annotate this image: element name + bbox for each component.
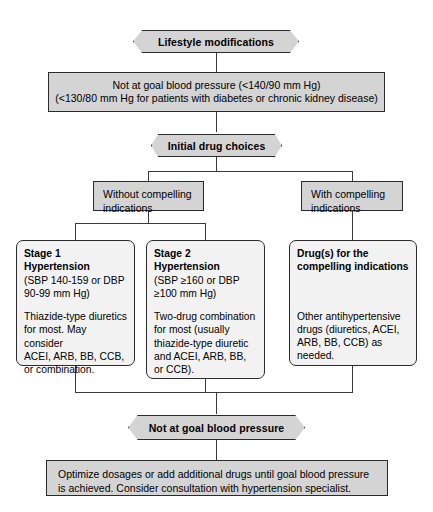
node-compelling-drugs-body-line1: Other antihypertensive <box>297 310 409 323</box>
node-compelling-drugs-body-line2: drugs (diuretics, ACEI, <box>297 323 409 336</box>
node-initial-drug-choices[interactable]: Initial drug choices <box>151 134 282 157</box>
node-stage1-body-line3: ACEI, ARB, BB, CCB, <box>24 350 127 363</box>
connector-merge-bar <box>75 392 353 393</box>
node-stage2-detail-line2: ≥100 mm Hg) <box>154 287 257 300</box>
node-stage2-body-line3: thiazide-type diuretic <box>154 337 257 350</box>
node-compelling-drugs-heading-line1: Drug(s) for the <box>297 247 409 260</box>
connector-lifestyle-to-notatgoal1 <box>216 53 217 72</box>
node-stage2-body-line4: and ACEI, ARB, BB, <box>154 350 257 363</box>
node-stage2-heading-line2: Hypertension <box>154 260 257 273</box>
node-stage1-detail-line2: 90-99 mm Hg) <box>24 287 127 300</box>
node-stage1-detail-line1: (SBP 140-159 or DBP <box>24 274 127 287</box>
node-optimize-dosages[interactable]: Optimize dosages or add additional drugs… <box>46 460 388 496</box>
node-lifestyle-modifications-label: Lifestyle modifications <box>144 36 288 48</box>
connector-merge-to-notatgoal2 <box>216 392 217 414</box>
node-stage1-heading-line1: Stage 1 <box>24 247 127 260</box>
node-stage1-body-line2: for most. May consider <box>24 323 127 350</box>
node-stage1-spacer <box>24 300 127 310</box>
node-stage-2-hypertension[interactable]: Stage 2 Hypertension (SBP ≥160 or DBP ≥1… <box>146 240 265 379</box>
node-optimize-line2: is achieved. Consider consultation with … <box>58 482 376 496</box>
node-stage2-body-line1: Two-drug combination <box>154 310 257 323</box>
node-stage2-heading-line1: Stage 2 <box>154 247 257 260</box>
node-with-compelling-line1: With compelling <box>311 188 402 202</box>
node-stage2-spacer <box>154 300 257 310</box>
node-initial-drug-choices-label: Initial drug choices <box>154 140 280 152</box>
node-with-compelling-indications[interactable]: With compelling indications <box>301 181 403 211</box>
node-optimize-line1: Optimize dosages or add additional drugs… <box>58 468 376 482</box>
connector-initialdrug-down <box>216 157 217 171</box>
connector-stage-split-bar <box>75 223 206 224</box>
node-not-at-goal-blood-pressure-2[interactable]: Not at goal blood pressure <box>128 415 305 440</box>
connector-with-compelling-to-drugs <box>352 211 353 240</box>
node-with-compelling-line2: indications <box>311 202 402 216</box>
node-drugs-for-compelling-indications[interactable]: Drug(s) for the compelling indications O… <box>289 240 417 366</box>
node-lifestyle-modifications[interactable]: Lifestyle modifications <box>133 30 299 53</box>
node-stage2-body-line5: or CCB). <box>154 363 257 376</box>
node-not-at-goal-2-label: Not at goal blood pressure <box>135 422 299 434</box>
node-compelling-drugs-body-line3: ARB, BB, CCB) as <box>297 336 409 349</box>
node-not-at-goal-1-line1: Not at goal blood pressure (<140/90 mm H… <box>55 79 377 93</box>
connector-compelling-drugs-down <box>352 366 353 392</box>
node-stage1-body-line4: or combination. <box>24 363 127 376</box>
node-compelling-drugs-heading-line2: compelling indications <box>297 260 409 273</box>
connector-to-stage2 <box>205 223 206 240</box>
node-without-compelling-indications[interactable]: Without compelling indications <box>93 181 204 211</box>
node-compelling-drugs-body-line4: needed. <box>297 349 409 362</box>
node-not-at-goal-blood-pressure-1[interactable]: Not at goal blood pressure (<140/90 mm H… <box>48 72 385 112</box>
node-without-compelling-line1: Without compelling <box>103 188 203 202</box>
node-stage2-detail-line1: (SBP ≥160 or DBP <box>154 274 257 287</box>
connector-to-stage1 <box>75 223 76 240</box>
flowchart-canvas: Lifestyle modifications Not at goal bloo… <box>0 0 433 512</box>
connector-notatgoal2-to-optimize <box>216 440 217 460</box>
node-stage-1-hypertension[interactable]: Stage 1 Hypertension (SBP 140-159 or DBP… <box>16 240 135 366</box>
node-not-at-goal-1-line2: (<130/80 mm Hg for patients with diabete… <box>55 92 377 106</box>
node-without-compelling-line2: indications <box>103 202 203 216</box>
node-stage1-body-line1: Thiazide-type diuretics <box>24 310 127 323</box>
node-stage2-body-line2: for most (usually <box>154 323 257 336</box>
node-stage1-heading-line2: Hypertension <box>24 260 127 273</box>
connector-split-bar-top <box>148 171 353 172</box>
connector-stage2-down <box>205 379 206 392</box>
connector-to-with-compelling <box>352 171 353 181</box>
node-compelling-drugs-spacer <box>297 274 409 310</box>
connector-to-without-compelling <box>148 171 149 181</box>
connector-notatgoal1-to-initialdrug <box>216 112 217 132</box>
